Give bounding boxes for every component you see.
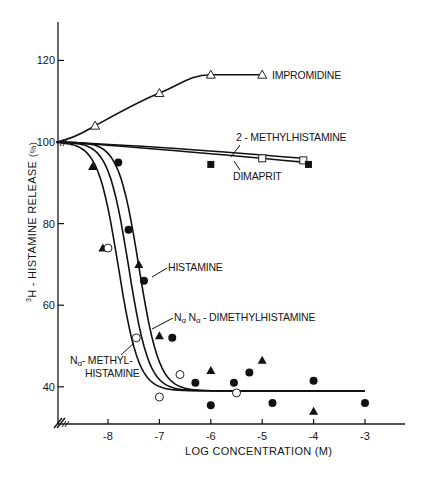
y-axis-title: 3H - HISTAMINE RELEASE(%) [25, 142, 38, 302]
filled-circle-marker [191, 379, 199, 387]
x-tick-label: -5 [257, 430, 267, 442]
y-tick-label: 40 [43, 381, 55, 393]
y-tick-label: 120 [37, 54, 55, 66]
dose-response-chart: 406080100120 -8-7-6-5-4-3 LOG CONCENTRAT… [0, 0, 429, 477]
x-tick-label: -3 [360, 430, 370, 442]
curve-impromidine [57, 75, 263, 142]
open-circle-marker [233, 389, 241, 397]
y-tick-label: 60 [43, 299, 55, 311]
leader-arrow [152, 318, 173, 329]
y-axis-title-unit: (%) [28, 142, 38, 157]
label-histamine: HISTAMINE [168, 261, 223, 273]
filled-circle-marker [140, 277, 148, 285]
label-2-methylhistamine: 2 - METHYLHISTAMINE [236, 131, 347, 143]
y-ticks: 406080100120 [37, 54, 64, 392]
x-tick-label: -4 [309, 430, 319, 442]
filled-circle-marker [230, 379, 238, 387]
open-square-marker [259, 155, 266, 162]
axis-break-icon [54, 418, 69, 428]
y-axis-title-main: H - HISTAMINE RELEASE [26, 161, 38, 298]
label-methylhistamine-line1: Nα- METHYL- [70, 354, 133, 368]
filled-circle-marker [245, 369, 253, 377]
filled-circle-marker [310, 377, 318, 385]
label-dimaprit: DIMAPRIT [233, 170, 282, 182]
x-axis-title: LOG CONCENTRATION (M) [185, 445, 332, 457]
label-dimethylhistamine: Nα Nα - DIMETHYLHISTAMINE [174, 311, 315, 325]
x-tick-label: -7 [155, 430, 165, 442]
filled-circle-marker [114, 158, 122, 166]
leader-arrow [152, 268, 167, 277]
svg-text:3H - HISTAMINE RELEASE(%): 3H - HISTAMINE RELEASE(%) [25, 142, 38, 302]
filled-circle-marker [168, 334, 176, 342]
filled-triangle-marker [309, 407, 318, 415]
y-tick-label: 80 [43, 218, 55, 230]
filled-triangle-marker [134, 260, 143, 268]
y-tick-label: 100 [37, 136, 55, 148]
filled-triangle-marker [155, 331, 164, 339]
open-circle-marker [132, 334, 140, 342]
x-ticks: -8-7-6-5-4-3 [103, 419, 370, 442]
open-triangle-marker [91, 121, 100, 129]
x-tick-label: -8 [103, 430, 113, 442]
filled-circle-marker [361, 399, 369, 407]
open-circle-marker [104, 244, 112, 252]
x-tick-label: -6 [206, 430, 216, 442]
filled-triangle-marker [206, 366, 215, 374]
filled-square-marker [305, 161, 312, 168]
leader-arrow [234, 161, 240, 170]
label-methylhistamine-line2: HISTAMINE [85, 367, 140, 379]
open-circle-marker [176, 371, 184, 379]
filled-circle-marker [268, 399, 276, 407]
filled-triangle-marker [258, 356, 267, 364]
curves [57, 75, 365, 391]
filled-circle-marker [125, 226, 133, 234]
label-impromidine: IMPROMIDINE [272, 69, 341, 81]
filled-square-marker [207, 161, 214, 168]
filled-circle-marker [207, 401, 215, 409]
open-circle-marker [155, 393, 163, 401]
